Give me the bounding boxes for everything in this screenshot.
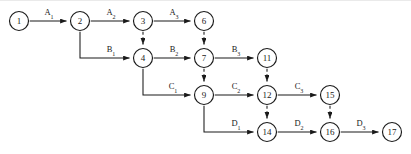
node-4[interactable]: 4 — [134, 49, 153, 68]
edge-label-e-c1: C1 — [169, 81, 178, 94]
node-17[interactable]: 17 — [383, 123, 402, 142]
edge-label-e-b1: B1 — [107, 44, 116, 57]
node-label-4: 4 — [141, 53, 146, 63]
node-label-7: 7 — [202, 53, 207, 63]
node-label-16: 16 — [326, 127, 336, 137]
edge-label-e-b3: B3 — [232, 44, 241, 57]
node-label-17: 17 — [388, 127, 398, 137]
node-6[interactable]: 6 — [195, 12, 214, 31]
activity-network-diagram: 1236471191215141617 A1A2A3B1B2B3C1C2C3D1… — [0, 0, 411, 154]
node-15[interactable]: 15 — [321, 86, 340, 105]
edge-label-e-d1: D1 — [231, 118, 240, 131]
edges-layer — [30, 21, 379, 132]
edge-label-e-d2: D2 — [294, 118, 303, 131]
edge-e-c1 — [143, 69, 191, 95]
node-2[interactable]: 2 — [71, 12, 90, 31]
edge-label-e-a1: A1 — [44, 7, 53, 20]
node-3[interactable]: 3 — [134, 12, 153, 31]
node-16[interactable]: 16 — [321, 123, 340, 142]
node-label-12: 12 — [263, 90, 272, 100]
node-14[interactable]: 14 — [258, 123, 277, 142]
node-label-2: 2 — [78, 16, 83, 26]
edge-label-e-a3: A3 — [169, 7, 178, 20]
node-1[interactable]: 1 — [10, 12, 29, 31]
edge-e-d1 — [204, 106, 254, 132]
node-12[interactable]: 12 — [258, 86, 277, 105]
node-label-11: 11 — [263, 53, 272, 63]
node-label-1: 1 — [17, 16, 22, 26]
node-9[interactable]: 9 — [195, 86, 214, 105]
nodes-layer: 1236471191215141617 — [10, 12, 402, 142]
node-11[interactable]: 11 — [258, 49, 277, 68]
node-label-3: 3 — [141, 16, 146, 26]
node-label-6: 6 — [202, 16, 207, 26]
node-label-15: 15 — [326, 90, 336, 100]
node-7[interactable]: 7 — [195, 49, 214, 68]
edge-label-e-b2: B2 — [170, 44, 179, 57]
edge-label-e-a2: A2 — [106, 7, 115, 20]
node-label-14: 14 — [263, 127, 273, 137]
edge-e-b1 — [80, 32, 130, 58]
edge-label-e-c3: C3 — [295, 81, 304, 94]
network-svg-canvas: 1236471191215141617 A1A2A3B1B2B3C1C2C3D1… — [0, 0, 411, 154]
edge-label-e-c2: C2 — [232, 81, 241, 94]
edge-label-e-d3: D3 — [356, 118, 365, 131]
node-label-9: 9 — [202, 90, 207, 100]
